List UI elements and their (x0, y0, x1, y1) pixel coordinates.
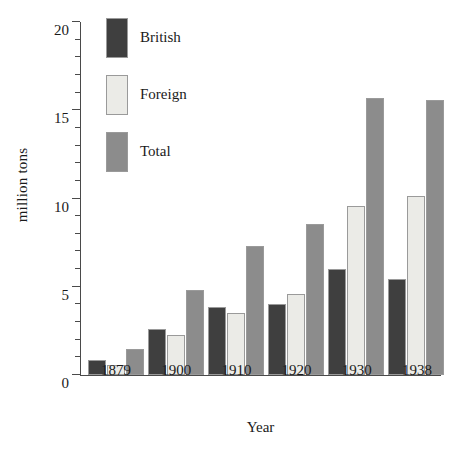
legend-label-total: Total (140, 143, 171, 160)
x-tick-label: 1930 (328, 362, 385, 379)
bar-foreign-1930 (347, 206, 365, 375)
bar-total-1930 (366, 98, 384, 375)
bar-group (328, 22, 385, 375)
y-tick-major (72, 198, 80, 199)
y-axis-label: million tons (14, 0, 40, 375)
legend-swatch-total (106, 132, 128, 172)
x-tick-label: 1920 (268, 362, 325, 379)
legend-swatch-foreign (106, 75, 128, 115)
y-tick-major (72, 374, 80, 375)
x-tick-label: 1879 (88, 362, 145, 379)
x-axis-label: Year (80, 419, 441, 436)
bar-group (268, 22, 325, 375)
legend-label-british: British (140, 29, 181, 46)
bar-group (148, 22, 205, 375)
bar-groups (80, 22, 441, 375)
legend-label-foreign: Foreign (140, 86, 187, 103)
y-tick-major (72, 286, 80, 287)
bar-british-1938 (388, 279, 406, 375)
bar-group (388, 22, 445, 375)
y-tick-major (72, 21, 80, 22)
x-tick-label: 1938 (388, 362, 445, 379)
bar-group (208, 22, 265, 375)
bar-total-1920 (306, 224, 324, 375)
plot-area: 05101520 (80, 22, 441, 375)
y-tick-major (72, 109, 80, 110)
bar-total-1910 (246, 246, 264, 375)
bar-british-1930 (328, 269, 346, 375)
bar-foreign-1938 (407, 196, 425, 375)
legend-swatch-british (106, 18, 128, 58)
x-tick-label: 1900 (148, 362, 205, 379)
bar-chart: million tons 05101520 187919001910192019… (0, 0, 449, 453)
x-tick-label: 1910 (208, 362, 265, 379)
bar-total-1938 (426, 100, 444, 375)
